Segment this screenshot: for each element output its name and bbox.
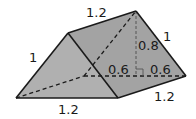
label-half-base-left: 0.6 [108, 62, 129, 77]
label-height: 0.8 [138, 38, 159, 53]
label-bottom-front: 1.2 [58, 102, 79, 117]
label-bottom-right: 1.2 [154, 89, 175, 104]
label-back-slant: 1 [163, 29, 171, 44]
label-half-base-right: 0.6 [150, 62, 171, 77]
label-top-edge: 1.2 [86, 5, 107, 20]
label-front-slant: 1 [29, 50, 37, 65]
prism-diagram: 1.2 1 1 0.8 0.6 0.6 1.2 1.2 [0, 0, 196, 119]
